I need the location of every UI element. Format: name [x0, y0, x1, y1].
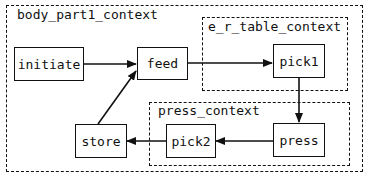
node-press-label: press — [279, 133, 318, 148]
node-store-label: store — [81, 134, 120, 149]
node-pick1-label: pick1 — [279, 54, 318, 69]
node-store: store — [75, 124, 127, 158]
node-initiate-label: initiate — [18, 57, 81, 72]
node-pick2-label: pick2 — [171, 134, 210, 149]
node-feed: feed — [137, 47, 188, 80]
edge-store-feed — [98, 71, 136, 124]
node-press: press — [273, 123, 325, 157]
node-feed-label: feed — [147, 56, 178, 71]
node-pick1: pick1 — [273, 44, 325, 78]
node-initiate: initiate — [14, 47, 84, 81]
node-pick2: pick2 — [166, 124, 216, 158]
